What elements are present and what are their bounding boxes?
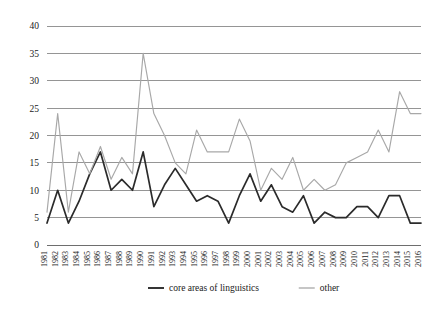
x-axis-label-1986: 1986 (93, 251, 102, 267)
y-axis-label-20: 20 (30, 131, 40, 141)
y-axis-label-35: 35 (30, 49, 40, 59)
x-axis-label-1995: 1995 (190, 251, 199, 267)
x-axis-label-1991: 1991 (147, 251, 156, 267)
x-axis-label-1990: 1990 (136, 251, 145, 267)
x-axis-label-1998: 1998 (222, 251, 231, 267)
x-axis-label-2000: 2000 (243, 251, 252, 267)
line-chart: 0510152025303540 19811982198319841985198… (0, 0, 441, 312)
x-axis-label-2010: 2010 (350, 251, 359, 267)
x-axis-label-2003: 2003 (275, 251, 284, 267)
x-axis-label-1984: 1984 (72, 251, 81, 267)
x-axis-label-1982: 1982 (51, 251, 60, 267)
x-axis-label-2005: 2005 (296, 251, 305, 267)
x-axis-label-2016: 2016 (414, 251, 423, 267)
x-axis-label-2015: 2015 (403, 251, 412, 267)
x-axis-label-1983: 1983 (61, 251, 70, 267)
y-axis-label-15: 15 (30, 158, 40, 168)
y-axis-label-0: 0 (34, 240, 39, 250)
x-axis-label-2002: 2002 (264, 251, 273, 267)
x-axis-label-1981: 1981 (40, 251, 49, 267)
x-axis-label-2009: 2009 (339, 251, 348, 267)
legend-label-core-areas-of-linguistics: core areas of linguistics (169, 283, 259, 293)
x-axis-label-1985: 1985 (83, 251, 92, 267)
series-group (47, 53, 421, 223)
y-axis-label-30: 30 (30, 76, 40, 86)
x-axis-label-1994: 1994 (179, 251, 188, 267)
x-axis-label-2011: 2011 (361, 251, 370, 267)
x-axis-label-1997: 1997 (211, 251, 220, 267)
x-axis-label-2004: 2004 (286, 251, 295, 267)
x-axis-label-2013: 2013 (382, 251, 391, 267)
x-axis-label-1996: 1996 (200, 251, 209, 267)
x-axis-label-2014: 2014 (393, 251, 402, 267)
chart-figure: 0510152025303540 19811982198319841985198… (0, 0, 441, 312)
x-axis-tick-labels: 1981198219831984198519861987198819891990… (40, 251, 423, 267)
y-axis-tick-labels: 0510152025303540 (30, 21, 40, 250)
x-axis-label-1989: 1989 (125, 251, 134, 267)
series-line-other (47, 53, 421, 212)
x-axis-label-2008: 2008 (329, 251, 338, 267)
x-axis-label-1992: 1992 (158, 251, 167, 267)
x-axis-label-1993: 1993 (168, 251, 177, 267)
x-axis-label-2001: 2001 (254, 251, 263, 267)
x-axis-label-1987: 1987 (104, 251, 113, 267)
x-axis-label-2012: 2012 (371, 251, 380, 267)
x-axis-label-2006: 2006 (307, 251, 316, 267)
y-axis-label-10: 10 (30, 186, 40, 196)
x-axis-label-1999: 1999 (232, 251, 241, 267)
chart-legend: core areas of linguisticsother (148, 283, 340, 293)
x-axis-label-1988: 1988 (115, 251, 124, 267)
x-axis-label-2007: 2007 (318, 251, 327, 267)
y-axis-label-5: 5 (34, 213, 39, 223)
legend-label-other: other (320, 283, 340, 293)
y-axis-label-25: 25 (30, 104, 40, 114)
y-axis-label-40: 40 (30, 21, 40, 31)
